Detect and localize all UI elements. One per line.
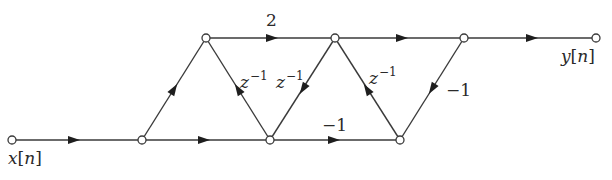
gain-z-inv-label-2: z−1 xyxy=(276,74,304,91)
node-b3 xyxy=(396,136,404,144)
arrow-right-icon xyxy=(396,34,408,42)
output-label: y[n] xyxy=(561,48,595,65)
node-input xyxy=(8,136,16,144)
gain-neg1-bottom-label: −1 xyxy=(322,117,347,134)
gain-z-inv-label-1: z−1 xyxy=(240,74,268,91)
arrow-right-icon xyxy=(198,136,210,144)
input-label: x[n] xyxy=(8,150,42,167)
z-base: z xyxy=(276,72,285,92)
arrow-right-icon xyxy=(266,34,278,42)
node-t2 xyxy=(331,34,339,42)
z-base: z xyxy=(240,72,249,92)
gain-neg1-right-label: −1 xyxy=(446,82,471,99)
input-index: n xyxy=(24,148,35,168)
z-exponent: −1 xyxy=(379,65,397,79)
signal-flow-graph xyxy=(0,0,612,180)
arrow-right-icon xyxy=(328,136,340,144)
arrow-down-left-icon xyxy=(425,82,438,96)
output-index: n xyxy=(577,46,588,66)
node-t1 xyxy=(202,34,210,42)
node-t3 xyxy=(460,34,468,42)
node-b2 xyxy=(266,136,274,144)
node-b1 xyxy=(138,136,146,144)
z-exponent: −1 xyxy=(286,69,304,83)
arrow-right-icon xyxy=(68,136,80,144)
gain-z-inv-label-3: z−1 xyxy=(369,70,397,87)
input-var: x xyxy=(8,148,18,168)
node-output xyxy=(592,34,600,42)
output-var: y xyxy=(561,46,571,66)
arrow-right-icon xyxy=(526,34,538,42)
arrow-up-right-icon xyxy=(167,82,180,96)
gain-2-label: 2 xyxy=(266,12,277,29)
z-exponent: −1 xyxy=(250,69,268,83)
z-base: z xyxy=(369,68,378,88)
